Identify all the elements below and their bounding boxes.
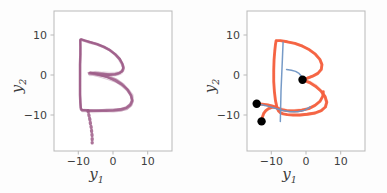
y-tick-label: 10 — [226, 29, 240, 42]
left-x-axis-label-text: y1 — [89, 165, 104, 183]
left-y-axis-label-text: y2 — [8, 79, 26, 94]
left-x-axis-label: y1 — [0, 165, 193, 185]
left-y-axis-label: y2 — [8, 66, 28, 106]
y-tick-label: −10 — [217, 109, 240, 122]
start-marker-2 — [257, 117, 265, 125]
figure-container: −10010−10010 y1 y2 −10010−10010 y1 y2 — [0, 0, 387, 193]
right-x-axis-label-text: y1 — [282, 165, 297, 183]
y-tick-label: 0 — [233, 69, 240, 82]
y-tick-label: −10 — [24, 109, 47, 122]
right-y-axis-label-text: y2 — [201, 79, 219, 94]
start-marker-1 — [253, 100, 261, 108]
y-tick-label: 10 — [33, 29, 47, 42]
left-plot-panel: −10010−10010 y1 y2 — [0, 0, 193, 193]
right-x-axis-label: y1 — [193, 165, 386, 185]
right-plot-panel: −10010−10010 y1 y2 — [193, 0, 386, 193]
right-y-axis-label: y2 — [201, 66, 221, 106]
y-tick-label: 0 — [40, 69, 47, 82]
start-marker-3 — [298, 76, 306, 84]
